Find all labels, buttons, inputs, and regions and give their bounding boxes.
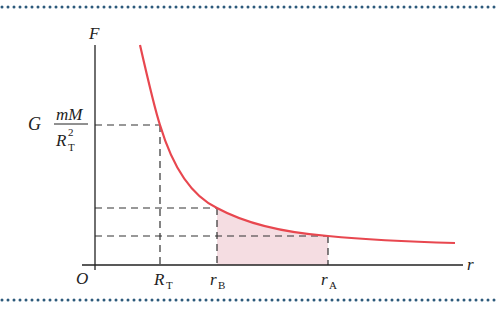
rb-mark-sub: B [218,279,225,291]
gravity-constant-label: G [28,114,41,134]
x-axis-label: r [467,255,474,274]
denominator-base: R [55,131,67,150]
ra-mark-base: r [321,270,328,289]
rb-mark-base: r [210,270,217,289]
ra-mark-sub: A [329,279,337,291]
denominator-sub: T [68,141,75,153]
force-distance-diagram: F r O G mM R 2 T R T r B r A [0,0,500,314]
rt-mark-sub: T [166,279,173,291]
diagram-root: F r O G mM R 2 T R T r B r A [0,0,500,314]
denominator-sup: 2 [68,126,74,138]
numerator-label: mM [56,105,83,124]
force-curve [140,45,455,243]
origin-label: O [76,269,88,288]
y-axis-label: F [88,24,100,43]
rt-mark-base: R [153,270,165,289]
